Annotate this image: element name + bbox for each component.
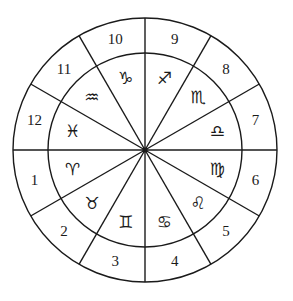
leo-icon: ♌︎ <box>190 193 205 213</box>
aquarius-icon: ♒︎ <box>84 87 99 107</box>
sagittarius-icon: ♐︎ <box>157 68 172 88</box>
house-number-5: 5 <box>222 223 230 239</box>
libra-icon: ♎︎ <box>210 121 225 141</box>
house-number-10: 10 <box>108 31 123 47</box>
zodiac-wheel: 123456789101112 ♈︎♉︎♊︎♋︎♌︎♍︎♎︎♏︎♐︎♑︎♒︎♓︎ <box>0 0 293 301</box>
house-number-8: 8 <box>222 61 230 77</box>
capricorn-icon: ♑︎ <box>118 68 133 88</box>
scorpio-icon: ♏︎ <box>190 87 205 107</box>
house-number-12: 12 <box>27 112 42 128</box>
cancer-icon: ♋︎ <box>157 212 172 232</box>
house-number-3: 3 <box>112 253 120 269</box>
house-number-2: 2 <box>60 223 68 239</box>
aries-icon: ♈︎ <box>65 159 80 179</box>
house-number-1: 1 <box>31 172 39 188</box>
house-number-4: 4 <box>171 253 179 269</box>
house-number-9: 9 <box>171 31 179 47</box>
taurus-icon: ♉︎ <box>84 193 99 213</box>
house-number-11: 11 <box>57 61 71 77</box>
pisces-icon: ♓︎ <box>65 121 80 141</box>
gemini-icon: ♊︎ <box>118 212 133 232</box>
center-point <box>143 148 148 153</box>
house-number-7: 7 <box>252 112 260 128</box>
house-number-6: 6 <box>252 172 260 188</box>
virgo-icon: ♍︎ <box>210 159 225 179</box>
